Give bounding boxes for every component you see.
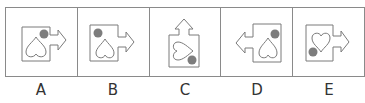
dot-icon: [40, 30, 49, 39]
box-arrow-heart-dot-icon: [150, 8, 222, 77]
box-arrow-heart-dot-icon: [221, 8, 293, 77]
option-d-panel[interactable]: [221, 8, 293, 76]
options-strip: [5, 7, 365, 77]
box-arrow-heart-dot-icon: [293, 8, 365, 77]
option-a-panel[interactable]: [6, 8, 78, 76]
dot-icon: [187, 56, 196, 65]
option-label-a: A: [5, 82, 77, 98]
option-e-panel[interactable]: [293, 8, 365, 76]
option-label-c: C: [149, 82, 221, 98]
box-arrow-heart-dot-icon: [78, 8, 150, 77]
option-labels: A B C D E: [5, 82, 365, 98]
option-b-panel[interactable]: [78, 8, 150, 76]
option-label-d: D: [221, 82, 293, 98]
box-arrow-heart-dot-icon: [6, 8, 78, 77]
dot-icon: [93, 29, 102, 38]
dot-icon: [309, 48, 318, 57]
option-label-b: B: [77, 82, 149, 98]
option-label-e: E: [293, 82, 365, 98]
option-c-panel[interactable]: [150, 8, 222, 76]
dot-icon: [271, 30, 280, 39]
